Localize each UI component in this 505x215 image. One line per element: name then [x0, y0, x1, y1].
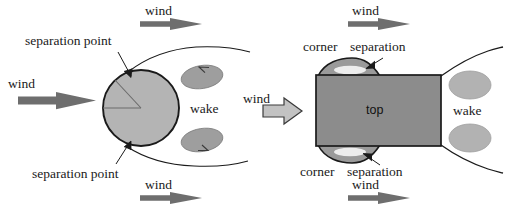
left-wind-arrow-main: [18, 92, 96, 109]
right-separation-label-bottom: separation: [347, 164, 403, 179]
middle-wind-label: wind: [243, 91, 270, 106]
right-diagram-group: wind wind corner separation corner separ…: [300, 3, 503, 204]
right-separation-bubble-top-core: [334, 66, 366, 74]
rectangular-body-label: top: [366, 103, 383, 117]
left-wake-label: wake: [190, 101, 218, 116]
flow-separation-diagram: wind wind wind separation point separati…: [0, 0, 505, 215]
right-corner-label-bottom: corner: [300, 164, 335, 179]
left-streamline-upper: [128, 47, 250, 72]
right-wind-label-bottom: wind: [352, 177, 379, 192]
right-wind-arrow-top: [348, 18, 410, 30]
left-wind-label-top: wind: [145, 3, 172, 18]
left-wind-label-main: wind: [8, 76, 35, 91]
left-separation-point-label-bottom: separation point: [32, 166, 119, 181]
right-wind-arrow-bottom: [348, 192, 410, 204]
middle-transition-group: wind: [243, 91, 302, 124]
left-wind-arrow-top: [140, 18, 202, 30]
right-separation-bubble-bottom-core: [334, 148, 366, 156]
left-separation-point-label-top: separation point: [25, 33, 112, 48]
right-wind-label-top: wind: [352, 3, 379, 18]
right-wake-eddy-upper: [449, 71, 491, 99]
left-wind-arrow-bottom: [140, 192, 202, 204]
left-wind-label-bottom: wind: [145, 177, 172, 192]
left-diagram-group: wind wind wind separation point separati…: [8, 3, 250, 204]
right-corner-label-top: corner: [303, 39, 338, 54]
diagram-canvas: wind wind wind separation point separati…: [0, 0, 505, 215]
right-wake-label: wake: [453, 103, 481, 118]
right-separation-label-top: separation: [350, 39, 406, 54]
right-wake-eddy-lower: [449, 124, 491, 152]
